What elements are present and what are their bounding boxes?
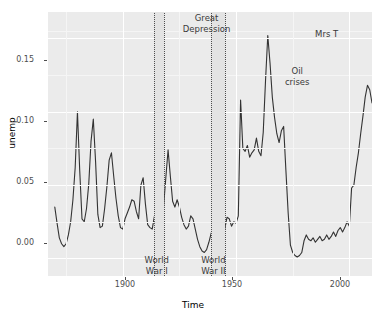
y-tick-mark-3 xyxy=(44,60,47,61)
wwii-band xyxy=(211,12,225,276)
y-tick-mark-2 xyxy=(44,121,47,122)
y-tick-label-3: 0.15 xyxy=(0,56,34,64)
annotation-mrs-t: Mrs T xyxy=(287,29,367,40)
plot-panel: World War IWorld War IIGreat DepressionO… xyxy=(48,12,372,276)
gridline-x-0 xyxy=(123,12,124,276)
x-tick-mark-1 xyxy=(232,277,233,280)
annotation-great-depression: Great Depression xyxy=(167,13,247,35)
gridline-y-2 xyxy=(48,112,372,113)
gridline-x-minor-2 xyxy=(293,12,294,276)
vline-wwi-end xyxy=(164,12,165,276)
gridline-x-1 xyxy=(236,12,237,276)
gridline-x-minor-0 xyxy=(66,12,67,276)
y-tick-label-2: 0.10 xyxy=(0,117,34,125)
gridline-x-2 xyxy=(349,12,350,276)
x-tick-mark-0 xyxy=(125,277,126,280)
vline-wwii-end xyxy=(225,12,226,276)
wwi-band xyxy=(154,12,163,276)
x-tick-label-0: 1900 xyxy=(105,281,145,289)
series-line-unemp xyxy=(48,12,372,276)
gridline-y-minor-0 xyxy=(48,222,372,223)
y-tick-mark-0 xyxy=(44,243,47,244)
x-tick-label-1: 1950 xyxy=(212,281,252,289)
y-tick-mark-1 xyxy=(44,182,47,183)
vline-wwi-start xyxy=(154,12,155,276)
annotation-world-war-ii: World War II xyxy=(173,255,253,276)
y-tick-label-0: 0.00 xyxy=(0,239,34,247)
y-axis-title: unemp xyxy=(7,103,17,163)
gridline-y-minor-1 xyxy=(48,148,372,149)
vline-wwii-start xyxy=(211,12,212,276)
x-axis-title: Time xyxy=(0,300,386,310)
annotation-oil-crises: Oil crises xyxy=(257,66,337,88)
x-tick-label-2: 2000 xyxy=(320,281,360,289)
chart-root: unemp Time 0.00 0.05 0.10 0.15 1900 1950… xyxy=(0,0,386,319)
y-tick-label-1: 0.05 xyxy=(0,178,34,186)
gridline-y-1 xyxy=(48,185,372,186)
x-tick-mark-2 xyxy=(340,277,341,280)
gridline-x-minor-1 xyxy=(179,12,180,276)
